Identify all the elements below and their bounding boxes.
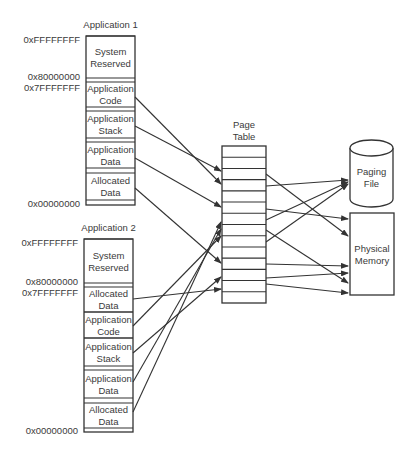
- segment-label: Data: [100, 156, 121, 167]
- address-label: 0xFFFFFFFF: [22, 237, 79, 248]
- segment-label: Data: [98, 416, 119, 427]
- mapping-arrow: [133, 222, 221, 412]
- address-label: 0x00000000: [28, 198, 80, 209]
- mapping-arrow: [266, 284, 348, 293]
- physical-memory-label: Physical: [354, 243, 389, 254]
- paging-file-label: Paging: [357, 166, 387, 177]
- address-label: 0xFFFFFFFF: [24, 34, 81, 45]
- physical-memory-box: PhysicalMemory: [350, 213, 394, 295]
- physical-memory-label: Memory: [355, 255, 390, 266]
- mapping-arrow: [135, 97, 221, 184]
- application-1-memory-map: Application 10xFFFFFFFF0x800000000x7FFFF…: [24, 19, 138, 209]
- segment-label: Stack: [99, 125, 123, 136]
- segment-label: Application: [85, 314, 131, 325]
- address-label: 0x7FFFFFFF: [24, 82, 80, 93]
- application-2-memory-map: Application 20xFFFFFFFF0x800000000x7FFFF…: [22, 222, 136, 436]
- segment-label: Application: [85, 373, 131, 384]
- segment-label: Stack: [97, 353, 121, 364]
- applications-layer: Application 10xFFFFFFFF0x800000000x7FFFF…: [22, 19, 138, 436]
- application-title: Application 1: [83, 19, 137, 30]
- mapping-arrow: [133, 229, 221, 382]
- segment-label: System: [93, 250, 125, 261]
- mapping-arrow: [133, 277, 221, 353]
- address-label: 0x80000000: [26, 276, 78, 287]
- segment-label: Code: [99, 95, 122, 106]
- address-label: 0x80000000: [28, 71, 80, 82]
- virtual-memory-diagram: Application 10xFFFFFFFF0x800000000x7FFFF…: [0, 0, 413, 455]
- segment-label: Application: [87, 113, 133, 124]
- segment-label: Code: [97, 326, 120, 337]
- segment-label: Allocated: [89, 288, 128, 299]
- address-label: 0x7FFFFFFF: [22, 287, 78, 298]
- mapping-arrow: [135, 126, 221, 171]
- segment-label: System: [95, 46, 127, 57]
- page-table: PageTable: [222, 119, 266, 304]
- storage-layer: PagingFilePhysicalMemory: [350, 140, 394, 295]
- mapping-arrow: [266, 184, 348, 242]
- paging-file-cylinder: PagingFile: [350, 140, 393, 207]
- segment-label: Reserved: [88, 262, 129, 273]
- segment-label: Data: [100, 187, 121, 198]
- segment-label: Data: [98, 300, 119, 311]
- application-title: Application 2: [81, 222, 135, 233]
- segment-label: Allocated: [89, 404, 128, 415]
- segment-label: Allocated: [91, 175, 130, 186]
- mapping-arrow: [266, 264, 348, 266]
- segment-label: Application: [87, 83, 133, 94]
- paging-file-label: File: [364, 178, 379, 189]
- segment-label: Data: [98, 385, 119, 396]
- page-table-title: Page: [233, 119, 255, 130]
- address-label: 0x00000000: [26, 425, 78, 436]
- mapping-arrow: [133, 289, 221, 299]
- segment-label: Reserved: [90, 58, 131, 69]
- segment-label: Application: [87, 144, 133, 155]
- page-table-title: Table: [233, 131, 256, 142]
- segment-label: Application: [85, 341, 131, 352]
